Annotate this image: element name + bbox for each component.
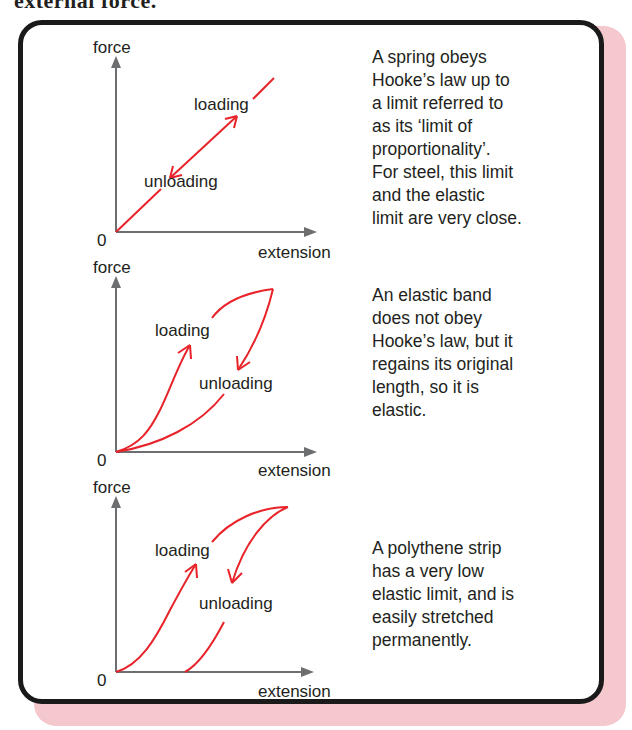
description-line: Hooke’s law up to — [372, 69, 622, 92]
description-line: proportionality’. — [372, 138, 622, 161]
loading-label: loading — [155, 541, 210, 560]
unloading-curve-bottom — [185, 622, 224, 672]
origin-label: 0 — [97, 231, 106, 250]
y-axis-label: force — [93, 38, 131, 57]
loading-line-end — [253, 78, 274, 99]
x-axis-arrow-icon — [304, 227, 317, 237]
unloading-curve — [238, 289, 273, 370]
description-line: does not obey — [372, 307, 622, 330]
y-axis-label: force — [93, 258, 131, 277]
loading-curve — [116, 564, 196, 672]
description-elastic-band: An elastic band does not obey Hooke’s la… — [372, 284, 622, 422]
x-axis-label: extension — [258, 243, 331, 262]
unloading-label: unloading — [199, 594, 273, 613]
description-line: limit are very close. — [372, 207, 622, 230]
graph-elastic-band — [111, 276, 317, 457]
loading-label: loading — [155, 321, 210, 340]
loading-line-segment — [116, 189, 161, 232]
unloading-label: unloading — [199, 374, 273, 393]
description-spring: A spring obeys Hooke’s law up to a limit… — [372, 46, 622, 230]
x-axis-label: extension — [258, 461, 331, 480]
unloading-curve-bottom — [116, 394, 224, 452]
description-line: elastic. — [372, 399, 622, 422]
unloading-label: unloading — [144, 172, 218, 191]
y-axis-arrow-icon — [111, 276, 121, 288]
description-line: A spring obeys — [372, 46, 622, 69]
description-line: permanently. — [372, 629, 622, 652]
description-line: A polythene strip — [372, 537, 622, 560]
y-axis-label: force — [93, 478, 131, 497]
description-polythene-strip: A polythene strip has a very low elastic… — [372, 537, 622, 652]
x-axis-arrow-icon — [304, 447, 317, 457]
x-axis-arrow-icon — [301, 667, 314, 677]
origin-label: 0 — [97, 671, 106, 690]
origin-label: 0 — [97, 451, 106, 470]
description-line: Hooke’s law, but it — [372, 330, 622, 353]
loading-curve — [116, 345, 190, 452]
y-axis-arrow-icon — [111, 56, 121, 68]
y-axis-arrow-icon — [111, 496, 121, 508]
description-line: For steel, this limit — [372, 161, 622, 184]
description-line: elastic limit, and is — [372, 583, 622, 606]
description-line: a limit referred to — [372, 92, 622, 115]
description-line: has a very low — [372, 560, 622, 583]
x-axis-label: extension — [258, 682, 331, 701]
graph-spring — [111, 56, 317, 237]
description-line: length, so it is — [372, 376, 622, 399]
loading-unloading-arrow-line — [170, 116, 237, 178]
description-line: as its ‘limit of — [372, 115, 622, 138]
description-line: An elastic band — [372, 284, 622, 307]
description-line: easily stretched — [372, 606, 622, 629]
loading-label: loading — [194, 95, 249, 114]
graph-polythene-strip — [111, 496, 314, 677]
description-line: and the elastic — [372, 184, 622, 207]
description-line: regains its original — [372, 353, 622, 376]
loading-curve-top — [212, 289, 273, 318]
